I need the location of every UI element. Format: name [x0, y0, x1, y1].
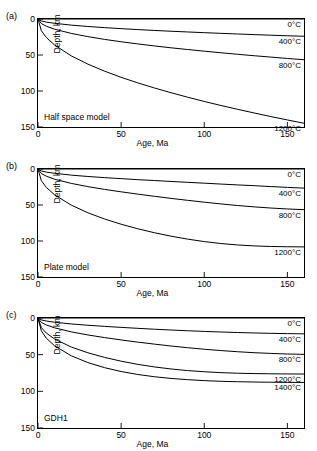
isotherm-curve — [38, 169, 304, 188]
y-tick-label: 100 — [21, 387, 35, 396]
isotherm-label: 0°C — [288, 21, 301, 29]
y-tick-label: 100 — [21, 237, 35, 246]
isotherm-curve — [38, 19, 304, 36]
panel-letter: (b) — [6, 162, 17, 171]
plot-area: 0°C400°C800°C1200°C050100150050100150Age… — [37, 18, 305, 128]
plot-canvas — [38, 169, 304, 277]
y-tick-label: 0 — [30, 314, 35, 323]
x-tick-label: 50 — [116, 280, 125, 289]
isotherm-curve — [38, 318, 304, 382]
y-axis-title: Depth, km — [52, 136, 62, 232]
axis-ticks — [38, 19, 287, 127]
x-tick-label: 150 — [280, 280, 294, 289]
model-label: GDH1 — [44, 414, 68, 423]
model-label: Half space model — [44, 113, 110, 122]
x-tick-label: 0 — [36, 130, 41, 139]
x-tick-label: 150 — [280, 130, 294, 139]
x-tick-label: 0 — [36, 280, 41, 289]
x-tick-label: 0 — [36, 431, 41, 440]
plot-canvas — [38, 318, 304, 428]
y-tick-label: 50 — [26, 51, 35, 60]
isotherm-label: 400°C — [279, 336, 301, 344]
isotherm-label: 400°C — [279, 190, 301, 198]
y-tick-label: 50 — [26, 350, 35, 359]
x-axis-title: Age, Ma — [137, 289, 169, 298]
x-tick-label: 100 — [197, 431, 211, 440]
plot-canvas — [38, 19, 304, 127]
isotherm-label: 1400°C — [274, 384, 301, 392]
isotherm-label: 800°C — [279, 356, 301, 364]
isotherm-label: 800°C — [279, 62, 301, 70]
y-tick-label: 150 — [21, 424, 35, 433]
isotherm-curve — [38, 169, 304, 210]
x-axis-title: Age, Ma — [137, 139, 169, 148]
y-tick-label: 0 — [30, 15, 35, 24]
y-tick-label: 150 — [21, 123, 35, 132]
y-tick-label: 100 — [21, 87, 35, 96]
model-label: Plate model — [44, 263, 89, 272]
x-tick-label: 100 — [197, 280, 211, 289]
y-tick-label: 0 — [30, 165, 35, 174]
isotherm-label: 800°C — [279, 212, 301, 220]
y-axis-title: Depth, km — [52, 0, 62, 82]
isotherm-label: 0°C — [288, 171, 301, 179]
panel-a: (a)0°C400°C800°C1200°C050100150050100150… — [0, 0, 317, 150]
panel-letter: (a) — [6, 12, 17, 21]
panel-letter: (c) — [6, 311, 17, 320]
isotherm-curve — [38, 318, 304, 334]
isotherm-label: 1200°C — [274, 249, 301, 257]
x-axis-title: Age, Ma — [137, 440, 169, 449]
isotherm-curve — [38, 19, 304, 60]
panel-c: (c)0°C400°C800°C1200°C1400°C050100150050… — [0, 299, 317, 451]
y-axis-title: Depth, km — [52, 287, 62, 383]
x-tick-label: 50 — [116, 431, 125, 440]
panel-b: (b)0°C400°C800°C1200°C050100150050100150… — [0, 150, 317, 300]
x-tick-label: 150 — [280, 431, 294, 440]
figure-thermal-models: (a)0°C400°C800°C1200°C050100150050100150… — [0, 0, 317, 451]
isotherm-label: 400°C — [279, 38, 301, 46]
plot-area: 0°C400°C800°C1200°C1400°C050100150050100… — [37, 317, 305, 429]
plot-area: 0°C400°C800°C1200°C050100150050100150Age… — [37, 168, 305, 278]
x-tick-label: 100 — [197, 130, 211, 139]
y-tick-label: 150 — [21, 273, 35, 282]
isotherm-label: 0°C — [288, 320, 301, 328]
y-tick-label: 50 — [26, 201, 35, 210]
x-tick-label: 50 — [116, 130, 125, 139]
